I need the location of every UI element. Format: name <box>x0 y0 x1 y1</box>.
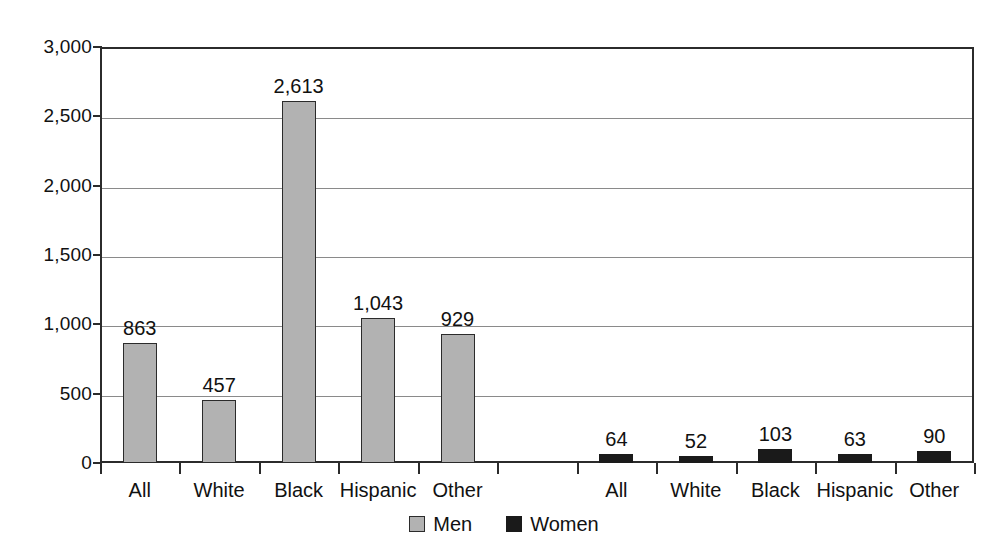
bar-men-hispanic <box>361 318 395 463</box>
bar-value-label: 929 <box>441 308 474 330</box>
x-axis-tick-mark <box>974 463 976 474</box>
bar-value-label: 863 <box>123 317 156 339</box>
bar-women-other <box>917 451 951 463</box>
legend-item-men[interactable]: Men <box>409 514 472 534</box>
x-axis-category-label: White <box>194 478 245 502</box>
x-axis-category-label: Black <box>751 478 800 502</box>
bar-value-label: 1,043 <box>353 292 403 314</box>
bar-value-label: 457 <box>202 374 235 396</box>
x-axis-category-label: White <box>670 478 721 502</box>
x-axis-category-label: Hispanic <box>816 478 893 502</box>
bar-men-white <box>202 400 236 463</box>
bar-women-white <box>679 456 713 463</box>
x-axis-tick-mark <box>338 463 340 474</box>
bar-value-label: 52 <box>685 430 707 452</box>
legend-label: Men <box>433 514 472 534</box>
bar-value-label: 90 <box>923 425 945 447</box>
bar-chart: 05001,0001,5002,0002,5003,000 8634572,61… <box>0 0 1008 559</box>
bar-value-label: 2,613 <box>274 75 324 97</box>
bar-women-hispanic <box>838 454 872 463</box>
x-axis-tick-mark <box>259 463 261 474</box>
x-axis-category-label: Other <box>909 478 959 502</box>
x-axis-tick-mark <box>736 463 738 474</box>
bar-women-all <box>599 454 633 463</box>
x-axis-category-label: Black <box>274 478 323 502</box>
y-axis-tick-marks <box>0 47 110 463</box>
bar-value-label: 63 <box>844 428 866 450</box>
chart-legend: MenWomen <box>0 514 1008 534</box>
x-axis-category-label: Other <box>433 478 483 502</box>
x-axis-category-label: Hispanic <box>340 478 417 502</box>
x-axis-labels: AllWhiteBlackHispanicOtherAllWhiteBlackH… <box>100 478 974 508</box>
bar-men-all <box>123 343 157 463</box>
x-axis-tick-marks <box>100 463 974 475</box>
x-axis-tick-mark <box>656 463 658 474</box>
x-axis-tick-mark <box>418 463 420 474</box>
x-axis-tick-mark <box>497 463 499 474</box>
x-axis-category-label: All <box>129 478 151 502</box>
legend-item-women[interactable]: Women <box>506 514 599 534</box>
bars-layer: 8634572,6131,04392964521036390 <box>100 47 974 463</box>
x-axis-tick-mark <box>100 463 102 474</box>
x-axis-tick-mark <box>179 463 181 474</box>
x-axis-tick-mark <box>577 463 579 474</box>
bar-men-other <box>441 334 475 463</box>
x-axis-tick-mark <box>895 463 897 474</box>
x-axis-category-label: All <box>605 478 627 502</box>
legend-swatch-icon <box>409 516 425 532</box>
x-axis-tick-mark <box>815 463 817 474</box>
bar-men-black <box>282 101 316 463</box>
legend-label: Women <box>530 514 599 534</box>
legend-swatch-icon <box>506 516 522 532</box>
bar-women-black <box>758 449 792 463</box>
bar-value-label: 103 <box>759 423 792 445</box>
bar-value-label: 64 <box>605 428 627 450</box>
